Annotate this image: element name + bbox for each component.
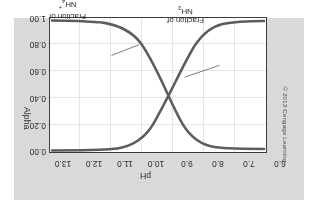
curve-nh4-plus [52, 21, 264, 151]
annotation-nh3: Fraction of NH3 [167, 3, 204, 25]
x-tick-label: 8.0 [203, 159, 233, 169]
annotation-nh3-formula: NH3 [178, 7, 193, 16]
curve-nh3 [52, 20, 264, 149]
leader-line-nh4 [111, 45, 139, 56]
annotation-nh4-prefix: Fraction of [49, 12, 86, 21]
y-axis-title: Alpha [22, 107, 32, 130]
y-tick-label: 0.60 [12, 67, 46, 77]
annotation-nh3-prefix: Fraction of [167, 16, 204, 25]
x-tick-label: 7.0 [234, 159, 264, 169]
annotation-nh4-formula: NH4+ [59, 0, 77, 9]
y-tick-label: 0.00 [12, 147, 46, 157]
x-tick-label: 6.0 [265, 159, 295, 169]
x-tick-label: 11.0 [110, 159, 140, 169]
curve-layer [50, 18, 266, 152]
rotated-figure: © 2013 Cengage Learning pH 6.0 7.0 8.0 9… [0, 0, 317, 218]
x-tick-label: 13.0 [48, 159, 78, 169]
y-tick-label: 0.80 [12, 40, 46, 50]
annotation-nh4: Fraction of NH4+ [49, 0, 86, 21]
leader-line-nh3 [185, 65, 220, 77]
x-tick-label: 10.0 [141, 159, 171, 169]
y-tick-label: 0.40 [12, 94, 46, 104]
figure-container: © 2013 Cengage Learning pH 6.0 7.0 8.0 9… [0, 0, 317, 218]
x-tick-label: 12.0 [79, 159, 109, 169]
figure-panel: © 2013 Cengage Learning pH 6.0 7.0 8.0 9… [14, 18, 304, 200]
plot-area: Fraction of NH3 Fraction of NH4+ [49, 17, 267, 153]
y-tick-label: 1.00 [12, 14, 46, 24]
x-tick-label: 9.0 [172, 159, 202, 169]
x-axis-title: pH [0, 171, 304, 181]
